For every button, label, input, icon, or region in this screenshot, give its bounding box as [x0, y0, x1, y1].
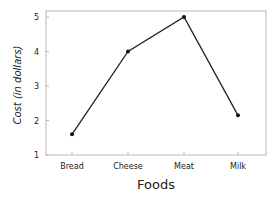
data-point-marker — [126, 50, 130, 54]
x-tick-label: Cheese — [113, 162, 143, 171]
y-tick-label: 5 — [34, 13, 39, 22]
data-point-marker — [70, 132, 74, 136]
plot-frame — [46, 11, 266, 155]
x-tick-label: Milk — [230, 162, 246, 171]
y-axis-title: Cost (in dollars) — [12, 46, 23, 125]
x-tick-label: Bread — [60, 162, 84, 171]
y-tick-label: 4 — [34, 48, 39, 57]
y-tick-label: 1 — [34, 151, 39, 160]
y-tick-label: 2 — [34, 117, 39, 126]
data-point-marker — [236, 113, 240, 117]
y-tick-label: 3 — [34, 82, 39, 91]
x-axis-title: Foods — [137, 177, 175, 192]
x-tick-label: Meat — [174, 162, 194, 171]
data-point-marker — [182, 15, 186, 19]
line-chart: 12345 BreadCheeseMeatMilk Foods Cost (in… — [0, 0, 278, 200]
